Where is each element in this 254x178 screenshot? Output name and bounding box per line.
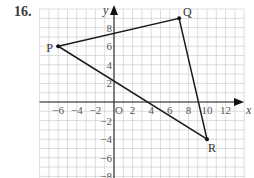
- y-tick-label: 6: [107, 40, 113, 52]
- y-tick-label: −8: [100, 170, 112, 178]
- x-axis-label: x: [245, 103, 252, 117]
- origin-label: O: [115, 104, 123, 116]
- vertex-dot: [177, 16, 181, 20]
- vertex-label: R: [208, 141, 216, 155]
- x-tick-label: 12: [220, 104, 231, 116]
- x-tick-label: 8: [186, 104, 192, 116]
- x-axis-arrow-icon: [234, 98, 244, 106]
- x-tick-label: 2: [130, 104, 136, 116]
- y-tick-label: 8: [107, 22, 113, 34]
- axes: xy: [40, 3, 252, 178]
- vertex-label: Q: [183, 5, 192, 19]
- y-axis-label: y: [102, 3, 109, 17]
- coordinate-plane: xy −6−4−224681012O8642−2−4−6−8 PQR: [0, 0, 254, 178]
- vertex-dot: [56, 44, 60, 48]
- x-tick-label: −6: [52, 104, 64, 116]
- y-tick-label: −4: [100, 133, 112, 145]
- y-tick-label: 4: [107, 59, 113, 71]
- y-tick-label: −6: [100, 152, 112, 164]
- y-axis-arrow-icon: [110, 5, 118, 15]
- vertex-label: P: [46, 41, 53, 55]
- y-tick-label: −2: [100, 115, 112, 127]
- x-tick-label: 10: [202, 104, 214, 116]
- x-tick-label: −4: [71, 104, 83, 116]
